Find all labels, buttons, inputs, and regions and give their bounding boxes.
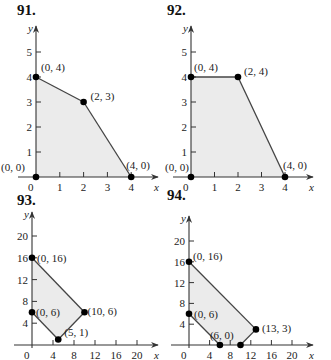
vertex-point	[128, 174, 135, 181]
vertex-point	[33, 74, 40, 81]
x-tick-label: 20	[132, 349, 144, 360]
x-tick-label: 0	[24, 349, 30, 360]
vertex-label: (0, 16)	[37, 252, 67, 265]
x-axis-label: x	[153, 181, 159, 193]
vertex-point	[188, 174, 195, 181]
vertex-label: (4, 0)	[126, 159, 150, 172]
vertex-label: (0, 4)	[41, 61, 65, 74]
y-tick-label: 12	[17, 274, 28, 286]
vertex-point	[29, 309, 36, 316]
vertex-label: (0, 16)	[193, 250, 223, 263]
vertex-label: (10, 6)	[88, 305, 118, 318]
vertex-label: (0, 0)	[165, 161, 189, 174]
chart-panel-92: 92.yx0123412345(0, 0)(0, 4)(2, 4)(4, 0)	[165, 2, 314, 193]
x-tick-label: 8	[71, 349, 77, 360]
vertex-label: (4, 0)	[283, 159, 307, 172]
x-axis-label: x	[308, 181, 314, 193]
x-axis-label: x	[153, 349, 159, 360]
vertex-point	[186, 311, 193, 318]
panel-title: 92.	[167, 2, 186, 18]
x-tick-label: 4	[128, 181, 134, 193]
y-tick-label: 3	[27, 96, 33, 108]
feasible-region	[191, 77, 285, 177]
y-tick-label: 4	[182, 71, 188, 83]
x-tick-label: 3	[259, 181, 265, 193]
vertex-point	[253, 326, 260, 333]
y-tick-label: 5	[27, 46, 33, 58]
x-axis-label: x	[308, 349, 314, 360]
x-tick-label: 3	[105, 181, 111, 193]
chart-panel-91: 91.yx0123412345(0, 0)(0, 4)(2, 3)(4, 0)	[1, 2, 159, 193]
y-tick-label: 5	[182, 46, 188, 58]
y-tick-label: 1	[182, 146, 188, 158]
x-tick-label: 16	[266, 349, 278, 360]
vertex-point	[217, 342, 224, 349]
vertex-point	[55, 336, 62, 343]
y-tick-label: 8	[23, 295, 29, 307]
x-tick-label: 1	[57, 181, 63, 193]
y-tick-label: 3	[182, 96, 188, 108]
chart-panel-93: 93.yx04812162048121620(0, 16)(10, 6)(5, …	[14, 192, 159, 360]
vertex-point	[188, 74, 195, 81]
vertex-point	[186, 259, 193, 266]
x-tick-label: 2	[81, 181, 87, 193]
panel-title: 94.	[167, 187, 186, 203]
vertex-point	[235, 74, 242, 81]
y-axis-label: y	[27, 22, 33, 34]
x-tick-label: 12	[90, 349, 101, 360]
vertex-label: (2, 4)	[244, 65, 268, 78]
vertex-label: (13, 3)	[262, 322, 292, 335]
y-tick-label: 4	[27, 71, 33, 83]
x-tick-label: 2	[235, 181, 241, 193]
x-tick-label: 8	[227, 349, 233, 360]
y-tick-label: 20	[17, 230, 29, 242]
x-tick-label: 4	[207, 349, 213, 360]
vertex-label: (0, 0)	[1, 161, 25, 174]
y-tick-label: 20	[174, 235, 186, 247]
x-tick-label: 12	[245, 349, 256, 360]
feasible-region	[36, 77, 131, 177]
vertex-point	[29, 254, 36, 261]
vertex-label: (5, 1)	[64, 326, 88, 339]
y-axis-label: y	[180, 212, 186, 224]
vertex-point	[33, 174, 40, 181]
vertex-point	[80, 99, 87, 106]
vertex-label: (6, 0)	[210, 329, 234, 342]
y-tick-label: 16	[17, 252, 29, 264]
vertex-label: (0, 6)	[194, 308, 218, 321]
x-tick-label: 4	[282, 181, 288, 193]
y-tick-label: 4	[23, 317, 29, 329]
panel-title: 91.	[17, 2, 36, 18]
vertex-label: (2, 3)	[91, 90, 115, 103]
x-tick-label: 20	[287, 349, 299, 360]
figure-canvas: 91.yx0123412345(0, 0)(0, 4)(2, 3)(4, 0)9…	[0, 0, 331, 360]
x-tick-label: 16	[111, 349, 123, 360]
y-tick-label: 12	[174, 277, 185, 289]
vertex-label: (0, 6)	[36, 306, 60, 319]
vertex-label: (0, 4)	[194, 61, 218, 74]
y-tick-label: 8	[180, 297, 186, 309]
y-axis-label: y	[23, 208, 29, 220]
x-tick-label: 4	[50, 349, 56, 360]
x-tick-label: 0	[181, 349, 187, 360]
x-tick-label: 1	[212, 181, 218, 193]
y-tick-label: 16	[174, 256, 186, 268]
y-axis-label: y	[182, 22, 188, 34]
y-tick-label: 4	[180, 318, 186, 330]
chart-panel-94: 94.yx04812162048121620(0, 16)(13, 3)(6, …	[167, 187, 314, 360]
panel-title: 93.	[17, 192, 36, 208]
y-tick-label: 1	[27, 146, 33, 158]
y-tick-label: 2	[182, 121, 188, 133]
vertex-point	[237, 342, 244, 349]
vertex-point	[282, 174, 289, 181]
y-tick-label: 2	[27, 121, 33, 133]
